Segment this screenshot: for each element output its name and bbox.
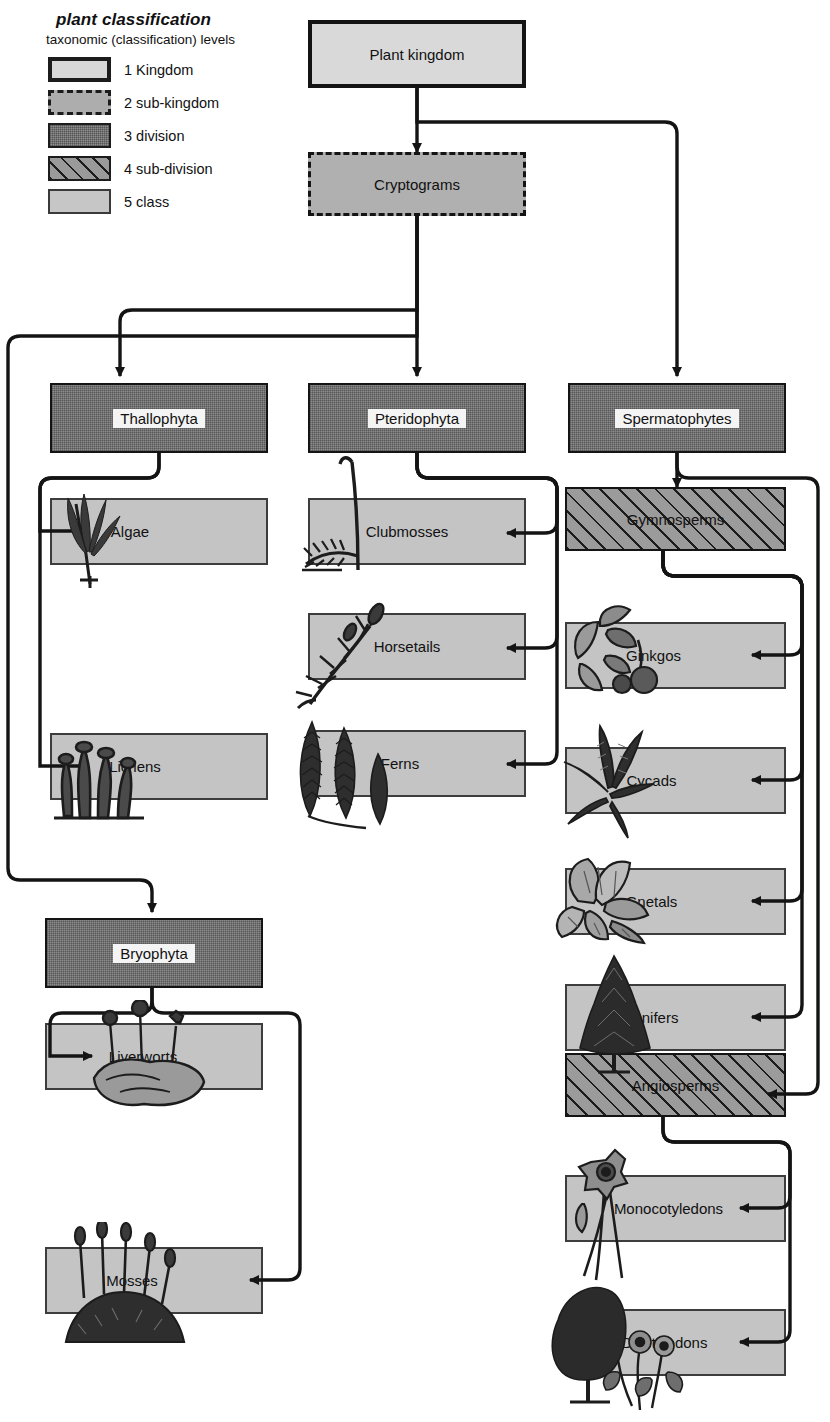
node-label-monocotyledons: Monocotyledons [614, 1201, 723, 1216]
legend-label-sub-kingdom: 2 sub-kingdom [124, 95, 219, 111]
legend-label-kingdom: 1 Kingdom [124, 62, 193, 78]
node-clubmosses[interactable]: Clubmosses [308, 498, 526, 565]
node-label-spermatophytes: Spermatophytes [615, 409, 738, 428]
legend-swatch-sub-division [48, 156, 111, 181]
node-gymnosperms[interactable]: Gymnosperms [565, 487, 786, 551]
node-label-cycads: Cycads [626, 773, 676, 788]
node-label-ginkgos: Ginkgos [626, 648, 681, 663]
node-pteridophyta[interactable]: Pteridophyta [308, 383, 526, 453]
node-mosses[interactable]: Mosses [45, 1247, 263, 1314]
node-label-horsetails: Horsetails [374, 639, 441, 654]
node-plant-kingdom[interactable]: Plant kingdom [308, 20, 526, 88]
node-cycads[interactable]: Cycads [565, 747, 786, 814]
node-spermatophytes[interactable]: Spermatophytes [568, 383, 786, 453]
legend-label-division: 3 division [124, 128, 184, 144]
node-label-ferns: Ferns [381, 756, 419, 771]
node-label-gymnosperms: Gymnosperms [627, 512, 725, 527]
diagram-canvas: plant classification taxonomic (classifi… [0, 0, 830, 1422]
node-label-dicotyledons: Dicotyledons [622, 1335, 708, 1350]
node-label-algae: Algae [111, 524, 149, 539]
node-angiosperms[interactable]: Angiosperms [565, 1053, 786, 1117]
legend-title: plant classification [56, 10, 294, 30]
legend-item-sub-division: 4 sub-division [44, 152, 294, 185]
node-lichens[interactable]: Lichens [50, 733, 268, 800]
legend-label-class: 5 class [124, 194, 169, 210]
legend-label-sub-division: 4 sub-division [124, 161, 213, 177]
node-label-cryptograms: Cryptograms [374, 177, 460, 192]
legend-swatch-division [48, 123, 111, 148]
legend-item-kingdom: 1 Kingdom [44, 53, 294, 86]
node-label-bryophyta: Bryophyta [113, 944, 195, 963]
node-dicotyledons[interactable]: Dicotyledons [565, 1309, 786, 1376]
node-gnetals[interactable]: Gnetals [565, 868, 786, 935]
node-monocotyledons[interactable]: Monocotyledons [565, 1175, 786, 1242]
legend-swatch-kingdom [48, 57, 111, 82]
node-thallophyta[interactable]: Thallophyta [50, 383, 268, 453]
legend-item-sub-kingdom: 2 sub-kingdom [44, 86, 294, 119]
node-algae[interactable]: Algae [50, 498, 268, 565]
node-label-thallophyta: Thallophyta [113, 409, 205, 428]
node-label-plant-kingdom: Plant kingdom [369, 47, 464, 62]
node-label-gnetals: Gnetals [626, 894, 678, 909]
node-bryophyta[interactable]: Bryophyta [45, 918, 263, 988]
legend-subtitle: taxonomic (classification) levels [46, 32, 294, 47]
node-label-mosses: Mosses [106, 1273, 158, 1288]
node-liverworts[interactable]: Liverworts [45, 1023, 263, 1090]
node-label-conifers: Conifers [623, 1010, 679, 1025]
node-horsetails[interactable]: Horsetails [308, 613, 526, 680]
node-cryptograms[interactable]: Cryptograms [308, 152, 526, 216]
node-label-lichens: Lichens [109, 759, 161, 774]
node-conifers[interactable]: Conifers [565, 984, 786, 1051]
node-label-pteridophyta: Pteridophyta [368, 409, 466, 428]
legend-swatch-class [48, 189, 111, 214]
legend-swatch-sub-kingdom [48, 90, 111, 115]
node-label-liverworts: Liverworts [109, 1049, 177, 1064]
node-label-clubmosses: Clubmosses [366, 524, 449, 539]
node-ferns[interactable]: Ferns [308, 730, 526, 797]
legend: plant classification taxonomic (classifi… [44, 10, 294, 218]
legend-item-class: 5 class [44, 185, 294, 218]
node-ginkgos[interactable]: Ginkgos [565, 622, 786, 689]
legend-item-division: 3 division [44, 119, 294, 152]
node-label-angiosperms: Angiosperms [632, 1078, 720, 1093]
